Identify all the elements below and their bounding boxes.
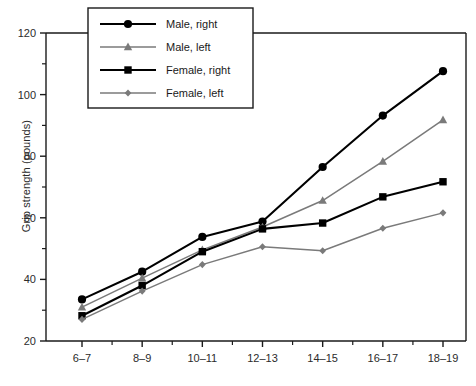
data-point-square — [319, 219, 326, 226]
y-tick-label: 120 — [18, 27, 36, 39]
y-axis-label: Grip strength (pounds) — [20, 96, 32, 256]
legend-label: Male, left — [166, 41, 211, 53]
legend-label: Male, right — [166, 18, 217, 30]
chart-root: Grip strength (pounds) 20406080100120 6–… — [0, 0, 476, 386]
data-point-circle — [198, 233, 206, 241]
data-point-circle — [379, 111, 387, 119]
data-point-square — [439, 178, 446, 185]
data-point-square — [124, 66, 131, 73]
legend-label: Female, right — [166, 64, 230, 76]
x-tick-label: 6–7 — [73, 352, 91, 364]
y-tick-label: 40 — [24, 273, 36, 285]
data-point-circle — [439, 67, 447, 75]
data-point-circle — [319, 163, 327, 171]
data-point-square — [199, 248, 206, 255]
x-tick-label: 14–15 — [307, 352, 338, 364]
data-point-circle — [78, 295, 86, 303]
chart-legend: Male, rightMale, leftFemale, rightFemale… — [88, 8, 253, 108]
data-point-square — [259, 225, 266, 232]
data-point-square — [379, 193, 386, 200]
x-tick-label: 16–17 — [368, 352, 399, 364]
x-tick-label: 18–19 — [428, 352, 459, 364]
y-tick-label: 20 — [24, 335, 36, 347]
x-tick-label: 8–9 — [133, 352, 151, 364]
data-point-circle — [124, 20, 132, 28]
grip-strength-line-chart: 20406080100120 6–78–910–1112–1314–1516–1… — [0, 0, 476, 386]
legend-label: Female, left — [166, 87, 223, 99]
x-tick-label: 10–11 — [187, 352, 217, 364]
x-tick-label: 12–13 — [247, 352, 278, 364]
